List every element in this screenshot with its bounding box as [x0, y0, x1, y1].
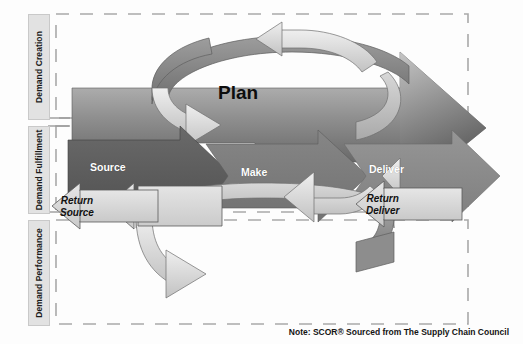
sidebar-item-label: Demand Fulfillment [34, 130, 44, 211]
sidebar-item-label: Demand Creation [34, 31, 44, 103]
return-source-label: Return Source [60, 195, 94, 219]
plan-label: Plan [218, 82, 258, 104]
sidebar-item-demand-performance[interactable]: Demand Performance [28, 220, 50, 326]
make-label: Make [241, 166, 267, 178]
return-deliver-label: Return Deliver [366, 193, 399, 217]
bottom-loop-right-segment [356, 232, 394, 272]
sidebar-item-demand-creation[interactable]: Demand Creation [28, 14, 50, 120]
return-deliver-label-line1: Return [366, 193, 399, 205]
source-note: Note: SCOR® Sourced from The Supply Chai… [289, 327, 509, 337]
sidebar-item-label: Demand Performance [34, 228, 44, 318]
sidebar-item-demand-fulfillment[interactable]: Demand Fulfillment [28, 126, 50, 214]
return-source-label-line2: Source [60, 207, 94, 219]
source-label: Source [90, 161, 126, 173]
scor-diagram-canvas: Demand Creation Demand Fulfillment Deman… [0, 0, 523, 344]
bottom-loop-left-arrowhead [166, 250, 206, 298]
return-source-label-line1: Return [60, 195, 94, 207]
deliver-label: Deliver [369, 163, 404, 175]
return-deliver-label-line2: Deliver [366, 205, 399, 217]
